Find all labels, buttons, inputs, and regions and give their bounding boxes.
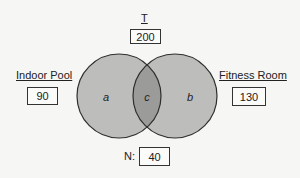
neither-label: N:	[124, 150, 135, 162]
region-label-a: a	[103, 91, 109, 103]
region-label-b: b	[187, 91, 193, 103]
set-value-box-indoor-pool: 90	[27, 87, 58, 105]
set-label-indoor-pool: Indoor Pool	[16, 69, 72, 81]
set-label-fitness-room: Fitness Room	[219, 69, 287, 81]
neither-value-box: 40	[139, 147, 170, 166]
set-value-box-fitness-room: 130	[232, 87, 266, 106]
universe-value-box: 200	[130, 29, 161, 44]
universe-label: T	[141, 12, 148, 24]
region-label-c: c	[144, 91, 150, 103]
